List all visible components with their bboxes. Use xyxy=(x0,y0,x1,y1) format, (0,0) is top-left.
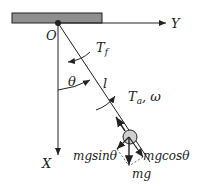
pendulum-diagram: Y X O θ l Tf Ta, ω mgsinθ mgcosθ mg xyxy=(0,0,199,186)
mgcos-label: mgcosθ xyxy=(143,149,190,163)
x-axis-label: X xyxy=(41,156,52,171)
applied-torque-arc xyxy=(96,96,115,110)
mgsin-label: mgsinθ xyxy=(73,149,118,163)
mg-label: mg xyxy=(132,167,151,181)
theta-label: θ xyxy=(68,74,76,89)
friction-torque-label: Tf xyxy=(96,40,110,57)
tension-arrow xyxy=(116,117,125,131)
y-axis-label: Y xyxy=(171,16,181,31)
length-label: l xyxy=(103,76,107,91)
dashed-guide xyxy=(129,157,143,166)
friction-torque-arc xyxy=(68,52,90,62)
dashed-guide xyxy=(117,149,129,166)
origin-label: O xyxy=(46,28,57,43)
pendulum-bob xyxy=(123,130,137,144)
applied-torque-label: Ta, ω xyxy=(128,89,161,106)
